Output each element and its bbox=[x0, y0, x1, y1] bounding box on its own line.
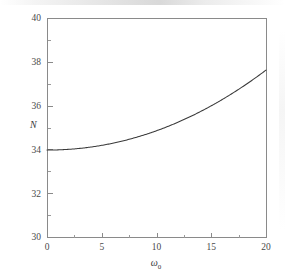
x-axis-tick-labels: 05101520 bbox=[45, 242, 271, 252]
x-axis-title-base: ω bbox=[151, 257, 158, 268]
plot-area: 303234363840 05101520 N ω0 bbox=[0, 0, 285, 277]
x-tick-label-15: 15 bbox=[207, 242, 217, 252]
data-series-curve bbox=[47, 70, 266, 150]
y-tick-label-30: 30 bbox=[32, 232, 42, 242]
y-tick-label-34: 34 bbox=[32, 145, 42, 155]
y-tick-label-32: 32 bbox=[32, 189, 42, 199]
x-tick-label-5: 5 bbox=[99, 242, 104, 252]
y-axis-title: N bbox=[29, 119, 38, 130]
y-tick-label-36: 36 bbox=[32, 101, 42, 111]
x-axis-title: ω0 bbox=[151, 257, 162, 271]
x-tick-label-10: 10 bbox=[152, 242, 162, 252]
y-tick-label-38: 38 bbox=[32, 57, 42, 67]
x-axis-title-subscript: 0 bbox=[158, 263, 162, 271]
chart-figure: 303234363840 05101520 N ω0 bbox=[0, 0, 285, 277]
x-tick-label-0: 0 bbox=[45, 242, 50, 252]
x-tick-label-20: 20 bbox=[261, 242, 271, 252]
x-axis-major-ticks bbox=[48, 233, 267, 238]
plot-frame bbox=[48, 19, 267, 238]
y-tick-label-40: 40 bbox=[32, 13, 42, 23]
